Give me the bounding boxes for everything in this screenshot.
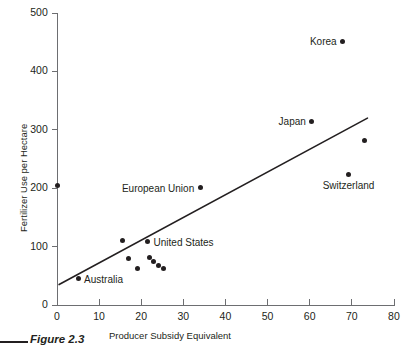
y-axis-title: Fertilizer Use per Hectare: [18, 124, 29, 232]
y-tick-label: 0: [14, 298, 48, 310]
x-tick-mark: [99, 299, 100, 306]
data-point: [340, 39, 345, 44]
x-tick-label: 10: [82, 310, 116, 322]
y-tick-mark: [52, 13, 58, 14]
x-tick-label: 70: [335, 310, 369, 322]
x-tick-mark: [141, 299, 142, 306]
y-tick-label: 400: [14, 64, 48, 76]
data-point: [309, 119, 314, 124]
y-axis-line: [57, 13, 58, 306]
data-point-label: Korea: [310, 36, 337, 47]
y-tick-mark: [52, 71, 58, 72]
x-tick-label: 50: [251, 310, 285, 322]
x-tick-mark: [183, 299, 184, 306]
data-point: [145, 239, 150, 244]
data-point: [362, 138, 367, 143]
x-tick-mark: [57, 299, 58, 306]
data-point-label: United States: [154, 236, 214, 247]
x-tick-label: 0: [40, 310, 74, 322]
y-tick-label: 500: [14, 6, 48, 18]
y-tick-mark: [52, 129, 58, 130]
data-point: [120, 238, 125, 243]
data-point-label: European Union: [122, 182, 194, 193]
data-point-label: Japan: [279, 116, 306, 127]
x-tick-mark: [351, 299, 352, 306]
y-tick-label: 200: [14, 181, 48, 193]
figure-caption: Figure 2.3: [30, 333, 84, 345]
data-point: [161, 266, 166, 271]
data-point: [346, 172, 351, 177]
x-axis-title: Producer Subsidy Equivalent: [109, 330, 231, 341]
x-tick-label: 40: [209, 310, 243, 322]
x-tick-mark: [267, 299, 268, 306]
data-point: [76, 276, 81, 281]
data-point-label: Australia: [84, 273, 123, 284]
data-point-label: Switzerland: [323, 180, 375, 191]
x-tick-label: 80: [377, 310, 411, 322]
x-tick-mark: [225, 299, 226, 306]
y-tick-mark: [52, 246, 58, 247]
x-tick-label: 30: [166, 310, 200, 322]
x-tick-mark: [394, 299, 395, 306]
x-tick-mark: [309, 299, 310, 306]
caption-rule: [0, 341, 28, 343]
x-tick-label: 20: [124, 310, 158, 322]
y-tick-label: 100: [14, 240, 48, 252]
data-point: [135, 266, 140, 271]
data-point: [198, 185, 203, 190]
y-tick-label: 300: [14, 123, 48, 135]
y-tick-mark: [52, 188, 58, 189]
data-point: [55, 183, 60, 188]
data-point: [126, 256, 131, 261]
scatter-chart: Fertilizer Use per Hectare Producer Subs…: [0, 0, 414, 358]
x-tick-label: 60: [293, 310, 327, 322]
